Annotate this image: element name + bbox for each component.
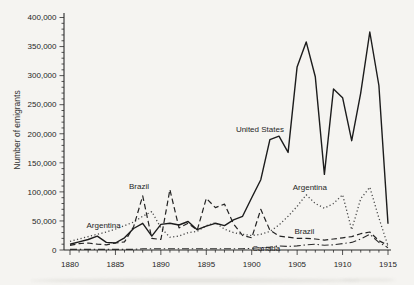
- y-tick-label: 0: [52, 246, 57, 255]
- x-tick-label: 1905: [288, 260, 306, 269]
- scan-artifact: [30, 278, 360, 282]
- y-tick-label: 200,000: [28, 130, 57, 139]
- x-tick-label: 1910: [334, 260, 352, 269]
- series-label-united-states: United States: [236, 125, 284, 134]
- y-tick-label: 250,000: [28, 100, 57, 109]
- scan-artifact: [340, 278, 396, 281]
- y-axis-title: Number of emigrants: [11, 70, 23, 190]
- y-tick-label: 100,000: [28, 188, 57, 197]
- series-line-brazil: [70, 190, 388, 246]
- x-tick-label: 1880: [61, 260, 79, 269]
- series-label-argentina: Argentina: [86, 221, 121, 230]
- y-tick-label: 150,000: [28, 159, 57, 168]
- scanned-chart-page: 050,000100,000150,000200,000250,000300,0…: [0, 0, 414, 285]
- series-label-brazil: Brazil: [129, 182, 149, 191]
- x-tick-label: 1915: [379, 260, 397, 269]
- series-label-canada: Canada: [252, 244, 281, 253]
- y-tick-label: 350,000: [28, 42, 57, 51]
- plot-area: 050,000100,000150,000200,000250,000300,0…: [28, 13, 398, 269]
- x-tick-label: 1890: [152, 260, 170, 269]
- x-tick-label: 1900: [243, 260, 261, 269]
- series-label-argentina: Argentina: [293, 183, 328, 192]
- x-tick-label: 1885: [107, 260, 125, 269]
- series-line-argentina: [70, 187, 388, 246]
- x-tick-label: 1895: [197, 260, 215, 269]
- y-tick-label: 300,000: [28, 71, 57, 80]
- series-label-brazil: Brazil: [294, 227, 314, 236]
- series-line-united-states: [70, 32, 388, 244]
- emigration-line-chart: 050,000100,000150,000200,000250,000300,0…: [0, 0, 414, 285]
- y-tick-label: 400,000: [28, 13, 57, 22]
- y-tick-label: 50,000: [32, 217, 57, 226]
